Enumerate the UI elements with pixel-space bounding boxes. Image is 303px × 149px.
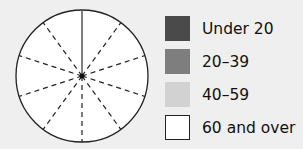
legend-swatch [165, 82, 190, 107]
pie-chart [0, 0, 150, 149]
legend-label: 60 and over [202, 119, 295, 137]
legend-item: 60 and over [165, 111, 295, 144]
legend-item: 40–59 [165, 78, 295, 111]
center-point [80, 74, 85, 79]
legend: Under 20 20–39 40–59 60 and over [165, 12, 295, 144]
legend-swatch [165, 115, 190, 140]
legend-swatch [165, 16, 190, 41]
legend-item: 20–39 [165, 45, 295, 78]
legend-label: 20–39 [202, 53, 249, 71]
legend-swatch [165, 49, 190, 74]
legend-label: 40–59 [202, 86, 249, 104]
legend-item: Under 20 [165, 12, 295, 45]
legend-label: Under 20 [202, 20, 274, 38]
